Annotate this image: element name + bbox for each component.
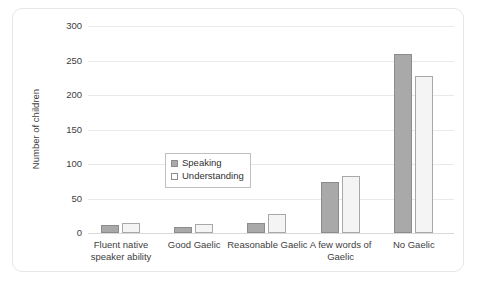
gridline-0: 0 xyxy=(88,233,454,234)
bar-speaking xyxy=(174,227,192,233)
bar-speaking xyxy=(101,225,119,233)
chart-figure: Number of children 050100150200250300 Fl… xyxy=(12,8,464,272)
y-tick-label-0: 0 xyxy=(77,228,82,238)
bar-group: Good Gaelic xyxy=(161,26,234,233)
bar-understanding xyxy=(195,224,213,233)
legend-item-speaking: Speaking xyxy=(171,157,244,170)
y-axis-label: Number of children xyxy=(30,89,41,169)
legend-label-speaking: Speaking xyxy=(182,157,222,170)
legend-item-understanding: Understanding xyxy=(171,170,244,183)
bar-understanding xyxy=(268,214,286,233)
x-tick-label: Reasonable Gaelic xyxy=(225,239,309,251)
bar-speaking xyxy=(321,182,339,233)
legend-label-understanding: Understanding xyxy=(182,170,244,183)
bar-speaking xyxy=(394,54,412,233)
bar-group: A few words of Gaelic xyxy=(308,26,381,233)
chart-legend: Speaking Understanding xyxy=(165,153,251,188)
bar-group: Fluent native speaker ability xyxy=(88,26,161,233)
bar-understanding xyxy=(122,223,140,233)
legend-swatch-speaking xyxy=(171,160,178,167)
x-tick-label: No Gaelic xyxy=(372,239,456,251)
legend-swatch-understanding xyxy=(171,173,178,180)
bar-understanding xyxy=(342,176,360,233)
y-tick-label-100: 100 xyxy=(66,159,82,169)
y-tick-label-300: 300 xyxy=(66,21,82,31)
x-tick-label: Good Gaelic xyxy=(152,239,236,251)
bar-speaking xyxy=(247,223,265,233)
bar-understanding xyxy=(415,76,433,233)
y-tick-label-150: 150 xyxy=(66,125,82,135)
bar-group: No Gaelic xyxy=(381,26,454,233)
y-tick-label-200: 200 xyxy=(66,90,82,100)
y-tick-label-50: 50 xyxy=(71,194,82,204)
plot-area: 050100150200250300 Fluent native speaker… xyxy=(88,26,454,233)
bar-group: Reasonable Gaelic xyxy=(234,26,307,233)
y-tick-label-250: 250 xyxy=(66,56,82,66)
x-tick-label: Fluent native speaker ability xyxy=(79,239,163,263)
x-tick-label: A few words of Gaelic xyxy=(299,239,383,263)
